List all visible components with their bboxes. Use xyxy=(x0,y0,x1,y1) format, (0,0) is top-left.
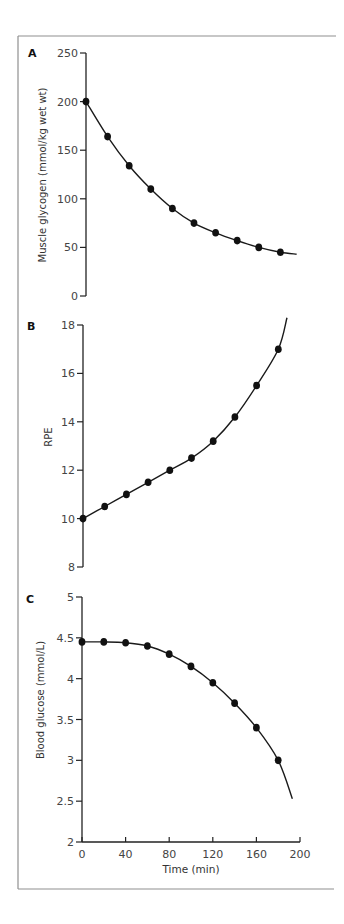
panel-b: B RPE 81012141618 xyxy=(27,318,287,574)
y-tick-label: 4 xyxy=(67,673,74,686)
y-tick-label: 0 xyxy=(71,290,78,303)
fit-curve-line xyxy=(83,318,287,519)
y-tick-label: 10 xyxy=(61,513,75,526)
data-point xyxy=(145,479,152,487)
data-point xyxy=(212,229,219,237)
y-tick-label: 2 xyxy=(67,836,74,849)
panel-label-a: A xyxy=(28,47,37,60)
data-point xyxy=(101,503,108,511)
y-tick-label: 8 xyxy=(68,561,75,574)
panel-label-c: C xyxy=(26,593,34,606)
y-axis-title-b: RPE xyxy=(43,427,54,446)
data-point xyxy=(188,663,195,671)
y-tick-label: 4.5 xyxy=(57,632,75,645)
x-tick-label: 40 xyxy=(119,848,133,861)
y-tick-label: 150 xyxy=(57,144,78,157)
y-tick-label: 2.5 xyxy=(57,795,75,808)
data-point xyxy=(191,219,198,227)
panel-a: A Muscle glycogen (mmol/kg wet wt) 05010… xyxy=(28,47,297,303)
data-point xyxy=(80,515,87,523)
data-point xyxy=(209,679,216,687)
x-tick-label: 0 xyxy=(79,848,86,861)
data-point xyxy=(275,757,282,765)
y-tick-label: 5 xyxy=(67,591,74,604)
data-point xyxy=(104,133,111,141)
x-tick-label: 160 xyxy=(246,848,267,861)
fit-curve-line xyxy=(82,642,292,799)
data-point xyxy=(83,98,90,106)
data-point xyxy=(166,466,173,474)
figure: A Muscle glycogen (mmol/kg wet wt) 05010… xyxy=(0,0,344,924)
y-tick-label: 12 xyxy=(61,464,75,477)
data-point xyxy=(147,185,154,193)
data-point xyxy=(123,491,130,499)
data-point xyxy=(144,642,151,650)
data-point xyxy=(188,454,195,462)
y-tick-label: 250 xyxy=(57,47,78,60)
y-tick-label: 3.5 xyxy=(57,714,75,727)
panel-c: C Blood glucose (mmol/L) Time (min) 22.5… xyxy=(26,591,311,875)
data-point xyxy=(232,413,239,421)
fit-curve-a xyxy=(86,102,297,255)
x-tick-label: 200 xyxy=(290,848,311,861)
data-point xyxy=(126,162,133,170)
data-point xyxy=(277,248,284,256)
data-point xyxy=(210,437,217,445)
y-axis-title-c: Blood glucose (mmol/L) xyxy=(35,641,46,759)
fit-curve-b xyxy=(83,318,287,519)
y-tick-label: 3 xyxy=(67,754,74,767)
data-point xyxy=(166,650,173,658)
y-tick-label: 14 xyxy=(61,416,75,429)
data-point xyxy=(234,237,241,245)
points-a xyxy=(83,98,284,256)
panel-label-b: B xyxy=(27,320,35,333)
data-point xyxy=(255,244,262,252)
data-point xyxy=(275,345,282,353)
data-point xyxy=(100,638,107,646)
fit-curve-line xyxy=(86,102,297,255)
x-tick-label: 120 xyxy=(202,848,223,861)
data-point xyxy=(79,638,86,646)
y-tick-label: 100 xyxy=(57,193,78,206)
data-point xyxy=(231,699,238,707)
fit-curve-c xyxy=(82,642,292,799)
data-point xyxy=(122,639,129,647)
x-axis-title-c: Time (min) xyxy=(161,863,219,875)
y-tick-label: 200 xyxy=(57,96,78,109)
data-point xyxy=(253,724,260,732)
axes-b: 81012141618 xyxy=(61,319,83,574)
points-b xyxy=(80,345,282,522)
data-point xyxy=(253,382,260,390)
x-tick-label: 80 xyxy=(162,848,176,861)
y-axis-title-a: Muscle glycogen (mmol/kg wet wt) xyxy=(37,87,48,262)
points-c xyxy=(79,638,282,764)
y-tick-label: 50 xyxy=(64,241,78,254)
y-tick-label: 18 xyxy=(61,319,75,332)
y-tick-label: 16 xyxy=(61,367,75,380)
axes-c: 22.533.544.5504080120160200 xyxy=(57,591,311,861)
axes-a: 050100150200250 xyxy=(57,47,86,303)
data-point xyxy=(169,205,176,213)
